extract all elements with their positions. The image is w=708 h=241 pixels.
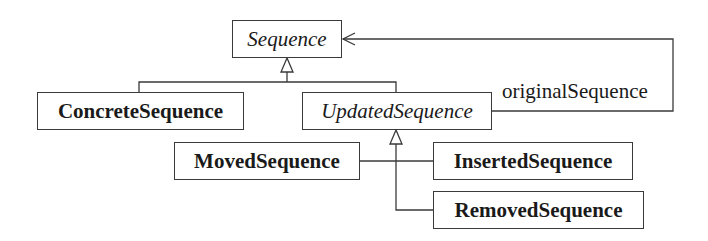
generalization-concrete-to-sequence [139,82,287,92]
generalization-removed-to-updated [396,144,433,210]
association-label-original-sequence: originalSequence [502,79,648,104]
generalization-triangle-updated [390,130,402,144]
class-removed-sequence: RemovedSequence [433,191,644,229]
class-inserted-sequence: InsertedSequence [433,142,633,180]
class-sequence: Sequence [232,20,342,58]
generalization-updated-to-sequence [287,82,396,92]
uml-class-diagram: Sequence ConcreteSequence UpdatedSequenc… [0,0,708,241]
class-updated-sequence: UpdatedSequence [302,92,492,130]
class-concrete-sequence: ConcreteSequence [37,92,244,130]
class-moved-sequence: MovedSequence [174,142,360,180]
generalization-triangle-sequence [281,58,293,72]
